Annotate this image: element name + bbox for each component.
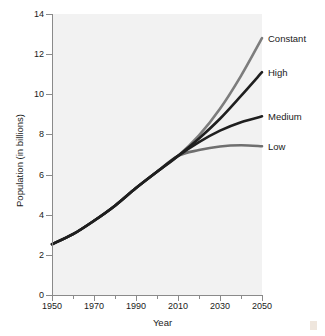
y-axis-line — [52, 14, 53, 296]
series-line-low — [52, 145, 262, 244]
series-label-medium: Medium — [268, 111, 302, 122]
y-axis-title: Population (in billions) — [14, 86, 25, 236]
x-minor-tick-2040 — [241, 296, 242, 299]
series-line-medium — [52, 116, 262, 244]
x-axis-title: Year — [0, 317, 325, 328]
x-tick-label-2050: 2050 — [242, 301, 282, 311]
series-curves-layer — [0, 0, 325, 336]
y-tick-12 — [46, 54, 52, 55]
x-tick-label-1990: 1990 — [116, 301, 156, 311]
y-tick-label-12: 12 — [4, 49, 44, 59]
y-tick-label-14: 14 — [4, 9, 44, 19]
x-minor-tick-1960 — [73, 296, 74, 299]
series-label-constant: Constant — [268, 33, 306, 44]
x-tick-label-2030: 2030 — [200, 301, 240, 311]
population-projection-chart: 02468101214 195019701990201020302050 Con… — [0, 0, 325, 336]
y-tick-14 — [46, 14, 52, 15]
y-tick-8 — [46, 134, 52, 135]
x-minor-tick-2000 — [157, 296, 158, 299]
series-label-high: High — [268, 67, 288, 78]
y-tick-6 — [46, 175, 52, 176]
x-tick-label-1970: 1970 — [74, 301, 114, 311]
x-tick-label-1950: 1950 — [32, 301, 72, 311]
series-line-high — [52, 72, 262, 244]
x-minor-tick-1980 — [115, 296, 116, 299]
y-tick-4 — [46, 215, 52, 216]
x-tick-label-2010: 2010 — [158, 301, 198, 311]
y-tick-label-0: 0 — [4, 290, 44, 300]
y-tick-2 — [46, 255, 52, 256]
y-tick-10 — [46, 94, 52, 95]
y-tick-label-2: 2 — [4, 250, 44, 260]
series-label-low: Low — [268, 141, 285, 152]
x-minor-tick-2020 — [199, 296, 200, 299]
page-corner-artifact — [310, 321, 317, 330]
series-line-constant — [52, 38, 262, 244]
